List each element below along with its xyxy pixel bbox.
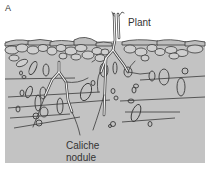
soil-cross-section xyxy=(0,0,209,169)
caliche-nodule-label: Caliche nodule xyxy=(66,140,99,164)
soil-profile-diagram: A Plant Caliche nodule xyxy=(0,0,209,169)
caliche-label-line1: Caliche xyxy=(66,140,99,152)
plant-label: Plant xyxy=(128,17,151,28)
caliche-label-line2: nodule xyxy=(66,152,99,164)
panel-label: A xyxy=(5,3,11,13)
surface-crust xyxy=(5,37,205,46)
